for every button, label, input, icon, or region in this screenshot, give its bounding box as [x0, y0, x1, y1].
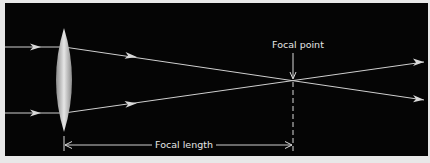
- incoming-ray-bottom: [5, 110, 64, 117]
- incoming-ray-top: [5, 44, 64, 51]
- focal-length-label: Focal length: [152, 140, 216, 150]
- refracted-ray-top: [64, 47, 424, 102]
- ray-arrow-icon: [124, 99, 137, 108]
- focal-point-pointer: [290, 53, 296, 79]
- convex-lens: [56, 28, 72, 132]
- optics-diagram: [0, 0, 430, 163]
- ray-arrow-icon: [413, 59, 424, 67]
- focal-point-label: Focal point: [272, 40, 324, 50]
- refracted-ray-bottom: [64, 59, 424, 114]
